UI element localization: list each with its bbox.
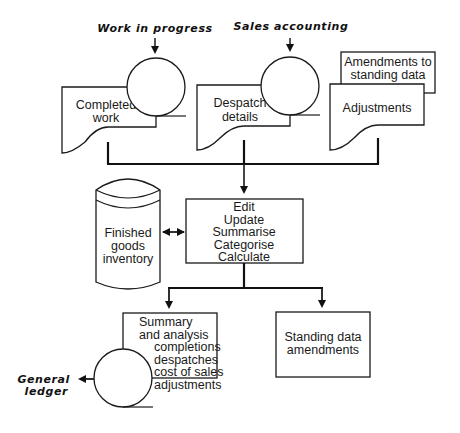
completed-work-line1: Completed: [76, 98, 136, 112]
process-step-calculate: Calculate: [218, 250, 270, 264]
sales-accounting-tape: [261, 57, 320, 115]
general-ledger-line2: ledger: [25, 385, 68, 398]
bidirectional-arrow-icon: [162, 228, 185, 236]
completed-work-line2: work: [92, 111, 120, 125]
standing-data-line2: amendments: [287, 343, 359, 357]
sales-accounting-label: Sales accounting: [234, 20, 349, 33]
amendments-line2: standing data: [350, 68, 425, 82]
standing-data-amendments-report: Standing data amendments: [276, 312, 370, 377]
finished-goods-line3: inventory: [103, 252, 154, 266]
output-connector: [168, 263, 323, 307]
standing-data-line1: Standing data: [284, 330, 361, 344]
work-in-progress-label: Work in progress: [97, 22, 212, 35]
amendments-line1: Amendments to: [344, 55, 432, 69]
finished-goods-line1: Finished: [104, 226, 151, 240]
general-ledger-tape: [94, 349, 153, 407]
flowchart: Work in progress Sales accounting Comple…: [0, 0, 460, 433]
summary-item-adjustments: adjustments: [154, 378, 221, 392]
despatch-details-line2: details: [222, 110, 258, 124]
process-box: Edit Update Summarise Categorise Calcula…: [186, 199, 303, 264]
adjustments-label: Adjustments: [343, 101, 412, 115]
finished-goods-line2: goods: [111, 239, 145, 253]
finished-goods-inventory-storage: Finished goods inventory: [96, 179, 160, 289]
work-in-progress-tape: [127, 58, 186, 116]
despatch-details-line1: Despatch: [214, 96, 267, 110]
